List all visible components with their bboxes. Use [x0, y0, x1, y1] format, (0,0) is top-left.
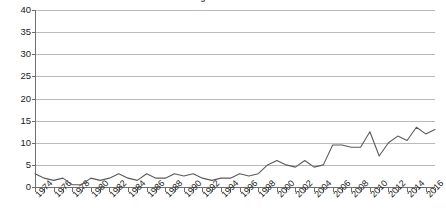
- data-line-publications: [35, 127, 435, 185]
